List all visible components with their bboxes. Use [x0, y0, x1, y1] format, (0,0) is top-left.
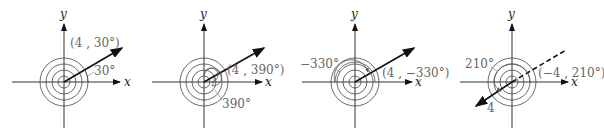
y-axis-label: y — [199, 7, 207, 21]
panel-2: x y 390° (4 , 390°) — [152, 7, 284, 128]
angle-label: 30° — [94, 64, 115, 78]
angle-label: 210° — [465, 57, 494, 71]
y-axis-label: y — [59, 7, 67, 21]
point-label: (4 , −330°) — [382, 66, 449, 80]
polar-coordinates-figure: x y 30° (4 , 30°) x y 390° (4 , 390°) — [0, 0, 604, 134]
point-label: (4 , 30°) — [70, 36, 120, 50]
angle-label: −330° — [300, 57, 339, 71]
x-axis-label: x — [265, 75, 272, 89]
x-axis-label: x — [124, 75, 131, 89]
point-label: (4 , 390°) — [227, 63, 284, 77]
angle-label: 390° — [222, 97, 251, 111]
panel-3: x y −330° (4 , −330°) — [300, 7, 449, 128]
panel-4: x y 210° 4 (−4 , 210°) — [460, 7, 604, 128]
y-axis-label: y — [350, 7, 358, 21]
panel-1: x y 30° (4 , 30°) — [12, 7, 131, 128]
y-axis-label: y — [507, 7, 515, 21]
radius-label: 4 — [487, 101, 495, 115]
point-label: (−4 , 210°) — [538, 66, 604, 80]
